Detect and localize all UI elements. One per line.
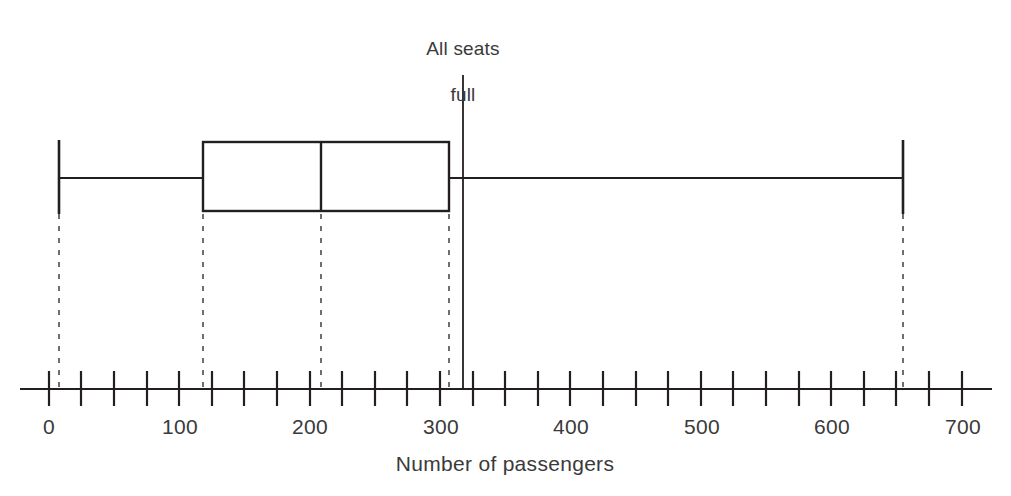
x-tick-label-300: 300 — [423, 415, 459, 439]
x-tick-label-100: 100 — [162, 415, 198, 439]
x-tick-label-200: 200 — [292, 415, 328, 439]
x-axis-title: Number of passengers — [396, 452, 614, 476]
all-seats-full-label: All seats full — [383, 14, 543, 129]
box-plot-figure: All seats full 0 100 200 300 400 500 600… — [0, 0, 1011, 496]
all-seats-full-label-line-2: full — [383, 83, 543, 106]
x-tick-label-0: 0 — [43, 415, 55, 439]
x-tick-label-400: 400 — [553, 415, 589, 439]
x-tick-label-700: 700 — [945, 415, 981, 439]
x-tick-label-600: 600 — [814, 415, 850, 439]
interquartile-box — [203, 142, 449, 211]
dashed-guide-lines — [59, 214, 903, 388]
x-tick-label-500: 500 — [684, 415, 720, 439]
all-seats-full-label-line-1: All seats — [383, 37, 543, 60]
